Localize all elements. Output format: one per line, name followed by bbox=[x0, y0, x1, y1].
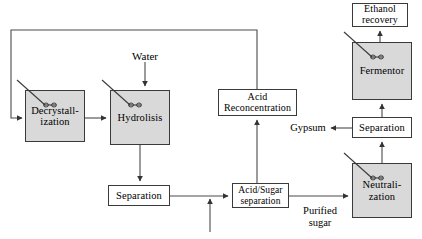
stream-label-gypsum: Gypsum bbox=[286, 122, 330, 134]
node-label-hydrolisis: Hydrolisis bbox=[116, 112, 165, 123]
node-label-ethanol-recovery: Ethanol recovery bbox=[360, 4, 400, 26]
node-label-decrystallization: Decrystall- ization bbox=[29, 105, 81, 128]
node-label-neutralization: Neutrali- zation bbox=[361, 179, 404, 202]
node-acid-reconcentration: Acid Reconcentration bbox=[218, 89, 297, 116]
node-separation-right: Separation bbox=[352, 117, 412, 138]
node-label-fermentor: Fermentor bbox=[358, 65, 407, 76]
node-acid-sugar-separation: Acid/Sugar separation bbox=[232, 183, 289, 208]
node-ethanol-recovery: Ethanol recovery bbox=[352, 3, 408, 27]
node-decrystallization: Decrystall- ization bbox=[25, 90, 85, 142]
process-flow-diagram: Decrystall- izationHydrolisisSeparationA… bbox=[0, 0, 422, 239]
node-label-acid-reconcentration: Acid Reconcentration bbox=[222, 92, 293, 114]
node-neutralization: Neutrali- zation bbox=[352, 163, 412, 218]
node-fermentor: Fermentor bbox=[352, 42, 412, 100]
node-separation-left: Separation bbox=[108, 185, 170, 206]
stream-label-purified-sugar: Purified sugar bbox=[296, 205, 344, 228]
node-hydrolisis: Hydrolisis bbox=[110, 90, 170, 145]
node-label-separation-right: Separation bbox=[357, 122, 407, 133]
node-label-acid-sugar-separation: Acid/Sugar separation bbox=[236, 185, 284, 206]
node-label-separation-left: Separation bbox=[114, 190, 164, 201]
stream-label-water: Water bbox=[123, 50, 167, 62]
